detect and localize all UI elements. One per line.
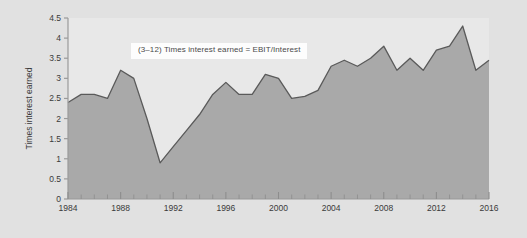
y-tick-label: 4 (56, 33, 61, 43)
x-tick-label: 2004 (322, 203, 341, 213)
x-tick-label: 1988 (111, 203, 130, 213)
y-axis-title: Times interest earned (24, 67, 34, 149)
x-tick-label: 2008 (374, 203, 393, 213)
y-tick-label: 3.5 (49, 53, 61, 63)
y-tick-label: 0.5 (49, 174, 61, 184)
x-axis-tick-labels: 198419881992199620002004200820122016 (59, 203, 499, 213)
chart-figure: 00.511.522.533.544.5 1984198819921996200… (0, 0, 527, 238)
y-axis (64, 18, 68, 199)
y-tick-label: 2 (56, 114, 61, 124)
y-tick-label: 3 (56, 73, 61, 83)
formula-annotation: (3–12) Times interest earned = EBIT/Inte… (131, 43, 307, 59)
x-tick-label: 1992 (164, 203, 183, 213)
x-tick-label: 1984 (59, 203, 78, 213)
x-tick-label: 2016 (480, 203, 499, 213)
y-axis-tick-labels: 00.511.522.533.544.5 (49, 13, 61, 204)
y-tick-label: 4.5 (49, 13, 61, 23)
y-tick-label: 1.5 (49, 134, 61, 144)
chart-inner-frame: 00.511.522.533.544.5 1984198819921996200… (18, 12, 509, 226)
x-tick-label: 2012 (427, 203, 446, 213)
y-axis-title-text: Times interest earned (24, 67, 34, 149)
x-tick-label: 1996 (216, 203, 235, 213)
y-tick-label: 1 (56, 154, 61, 164)
x-tick-label: 2000 (269, 203, 288, 213)
y-tick-label: 2.5 (49, 93, 61, 103)
